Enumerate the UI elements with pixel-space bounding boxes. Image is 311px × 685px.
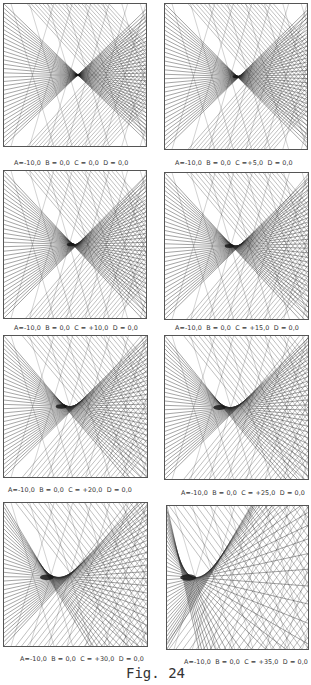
plot-panel-4 — [164, 172, 309, 320]
line-pattern — [4, 336, 147, 477]
panel-parameter-label: A=-10,0 B = 0,0 C = +10,0 D = 0,0 — [14, 324, 138, 332]
caustic-cusp — [40, 575, 54, 581]
line-pattern — [4, 4, 146, 146]
figure-caption: Fig. 24 — [0, 665, 311, 681]
line-pattern — [4, 171, 146, 318]
caustic-cusp — [67, 243, 75, 247]
panel-parameter-label: A=-10,0 B = 0,0 C =+5,0 D = 0,0 — [175, 159, 293, 167]
panel-parameter-label: A=-10,0 B = 0,0 C = +15,0 D = 0,0 — [175, 324, 299, 332]
panel-parameter-label: A=-10,0 B = 0,0 C = +25,0 D = 0,0 — [181, 489, 305, 497]
plot-panel-7 — [3, 502, 148, 647]
plot-panel-5 — [3, 335, 148, 478]
caustic-cusp — [225, 244, 234, 248]
panel-parameter-label: A=-10,0 B = 0,0 C = +20,0 D = 0,0 — [8, 486, 132, 494]
line-pattern — [165, 173, 308, 319]
panel-parameter-label: A=-10,0 B = 0,0 C = +30,0 D = 0,0 — [20, 655, 144, 663]
line-pattern — [167, 506, 308, 649]
line-pattern — [4, 503, 147, 646]
plot-panel-2 — [164, 3, 308, 150]
panel-parameter-label: A=-10,0 B = 0,0 C = 0,0 D = 0,0 — [14, 159, 128, 167]
plot-panel-8 — [166, 505, 309, 650]
line-pattern — [165, 4, 307, 149]
caustic-cusp — [56, 404, 67, 408]
caustic-cusp — [233, 75, 240, 78]
plot-panel-1 — [3, 3, 147, 147]
caustic-cusp — [75, 74, 81, 77]
caustic-cusp — [213, 405, 225, 410]
plot-panel-3 — [3, 170, 147, 319]
caustic-cusp — [180, 574, 196, 580]
line-pattern — [165, 336, 308, 479]
plot-panel-6 — [164, 335, 309, 480]
